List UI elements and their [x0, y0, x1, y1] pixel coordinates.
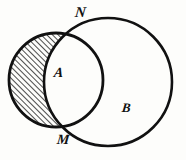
label-set-a: A — [53, 66, 64, 80]
venn-diagram-canvas — [0, 0, 186, 160]
label-intersection-top: N — [74, 5, 86, 20]
shaded-region-a-minus-b — [0, 0, 186, 160]
label-intersection-bottom: M — [56, 133, 70, 147]
label-set-b: B — [121, 101, 131, 114]
venn-diagram-figure: N A B M — [0, 0, 186, 160]
